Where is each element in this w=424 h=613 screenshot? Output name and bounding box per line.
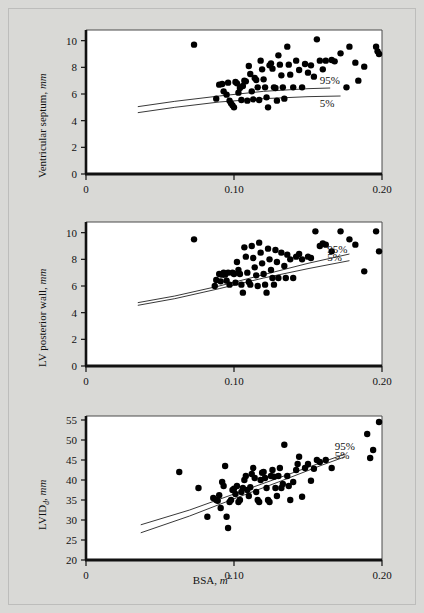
data-point: [247, 281, 253, 287]
data-point: [195, 485, 201, 491]
data-point: [216, 492, 222, 498]
data-point: [284, 473, 290, 479]
data-point: [314, 36, 320, 42]
y-axis-label-panel-3: LVIDd, mm: [36, 480, 51, 530]
data-point: [275, 473, 281, 479]
scatter-plot-ventricular-septum: 024681000.100.2095%5%: [0, 18, 424, 198]
data-point: [281, 263, 287, 269]
data-point: [260, 76, 266, 82]
annotation-5pct: 5%: [327, 251, 342, 263]
data-point: [284, 43, 290, 49]
data-point: [337, 50, 343, 56]
data-point: [223, 514, 229, 520]
data-point: [272, 85, 278, 91]
y-tick-label: 45: [66, 454, 78, 466]
data-point: [217, 505, 223, 511]
x-tick-label: 0: [83, 375, 89, 387]
data-point: [290, 275, 296, 281]
x-tick-label: 0: [83, 183, 89, 195]
y-tick-label: 8: [72, 253, 78, 265]
data-point: [249, 243, 255, 249]
data-point: [262, 475, 268, 481]
data-point: [252, 264, 258, 270]
data-point: [278, 72, 284, 78]
data-point: [280, 84, 286, 90]
data-point: [253, 489, 259, 495]
data-point: [311, 466, 317, 472]
data-point: [223, 91, 229, 97]
data-point: [220, 483, 226, 489]
data-point: [281, 442, 287, 448]
data-point: [299, 494, 305, 500]
data-point: [287, 256, 293, 262]
data-point: [250, 255, 256, 261]
data-point: [244, 97, 250, 103]
data-point: [263, 485, 269, 491]
data-point: [250, 96, 256, 102]
figure-container: 024681000.100.2095%5% Ventricular septum…: [0, 0, 424, 613]
data-point: [176, 469, 182, 475]
data-point: [305, 461, 311, 467]
data-point: [308, 478, 314, 484]
data-point: [241, 244, 247, 250]
data-point: [337, 228, 343, 234]
data-point: [320, 66, 326, 72]
y-tick-label: 4: [72, 115, 78, 127]
x-axis-label: BSA, m2: [0, 573, 424, 586]
y-axis-label-panel-1: Ventricular septum, mm: [36, 73, 48, 178]
data-point: [343, 84, 349, 90]
data-point: [302, 61, 308, 67]
data-point: [256, 97, 262, 103]
data-point: [268, 267, 274, 273]
data-point: [296, 454, 302, 460]
data-point: [331, 58, 337, 64]
data-point: [191, 236, 197, 242]
data-point: [277, 61, 283, 67]
y-tick-label: 30: [66, 514, 78, 526]
x-tick-label: 0.20: [372, 183, 392, 195]
data-point: [260, 469, 266, 475]
data-point: [283, 275, 289, 281]
data-point: [238, 97, 244, 103]
data-point: [323, 57, 329, 63]
data-point: [246, 493, 252, 499]
data-point: [269, 467, 275, 473]
data-point: [226, 281, 232, 287]
data-point: [290, 84, 296, 90]
data-point: [328, 465, 334, 471]
data-point: [225, 79, 231, 85]
data-point: [257, 249, 263, 255]
data-point: [293, 467, 299, 473]
data-point: [231, 104, 237, 110]
data-point: [234, 259, 240, 265]
x-tick-label: 0.10: [224, 183, 244, 195]
data-point: [367, 455, 373, 461]
data-point: [260, 271, 266, 277]
data-point: [274, 259, 280, 265]
data-point: [361, 268, 367, 274]
y-tick-label: 55: [66, 414, 78, 426]
data-point: [243, 473, 249, 479]
data-point: [247, 484, 253, 490]
data-point: [287, 71, 293, 77]
y-tick-label: 0: [72, 168, 78, 180]
data-point: [191, 41, 197, 47]
data-point: [308, 62, 314, 68]
data-point: [373, 228, 379, 234]
data-point: [265, 104, 271, 110]
data-point: [254, 84, 260, 90]
data-point: [281, 95, 287, 101]
data-point: [271, 281, 277, 287]
data-point: [370, 447, 376, 453]
data-point: [280, 481, 286, 487]
panel-lv-posterior-wall: 024681000.100.2095%5% LV posterior wall,…: [0, 215, 424, 395]
y-axis-label-panel-2: LV posterior wall, mm: [36, 269, 48, 367]
y-tick-label: 2: [72, 141, 78, 153]
data-point: [263, 94, 269, 100]
scatter-plot-lvid-d: 202530354045505500.100.2095%5%: [0, 405, 424, 585]
data-point: [286, 61, 292, 67]
data-point: [352, 241, 358, 247]
data-point: [256, 239, 262, 245]
y-tick-label: 10: [66, 35, 78, 47]
annotation-95pct: 95%: [320, 74, 340, 86]
